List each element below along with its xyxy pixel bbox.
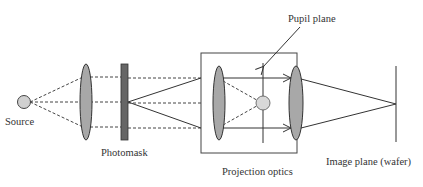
lithography-diagram: Source Photomask Projection optics Pupil… xyxy=(0,0,423,187)
photomask-label: Photomask xyxy=(101,147,148,158)
pupil-plane-label: Pupil plane xyxy=(288,13,336,24)
mask-to-optics-dashed-rays xyxy=(128,78,201,128)
projection-lens-1 xyxy=(213,66,225,140)
source-label: Source xyxy=(5,116,34,127)
collimated-rays xyxy=(90,77,122,127)
projection-lens-2 xyxy=(289,66,303,140)
pupil-plane-pointer-arrow xyxy=(263,27,300,67)
source-rays xyxy=(30,77,83,127)
projection-optics-label: Projection optics xyxy=(222,166,293,177)
image-plane-label: Image plane (wafer) xyxy=(326,156,412,168)
imaging-rays xyxy=(301,79,396,128)
condenser-lens xyxy=(80,64,92,140)
photomask xyxy=(121,64,128,140)
pupil-aperture-icon xyxy=(256,96,270,110)
source-icon xyxy=(18,96,31,109)
